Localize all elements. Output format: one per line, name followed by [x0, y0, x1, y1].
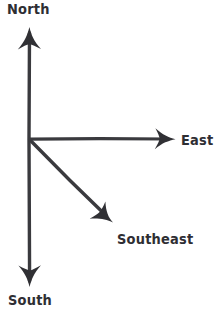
label-east: East — [181, 133, 213, 148]
north-south-axis-line — [29, 33, 30, 281]
compass-diagram: North East Southeast South — [0, 0, 214, 314]
north-south-axis-group — [18, 27, 41, 287]
southeast-axis-line — [30, 140, 106, 216]
southeast-axis-group — [30, 140, 113, 222]
label-southeast: Southeast — [117, 232, 193, 247]
label-south: South — [8, 293, 52, 308]
label-north: North — [7, 2, 50, 17]
east-axis-group — [30, 128, 176, 149]
compass-diagram-canvas — [0, 0, 214, 314]
east-axis-line — [30, 139, 169, 140]
